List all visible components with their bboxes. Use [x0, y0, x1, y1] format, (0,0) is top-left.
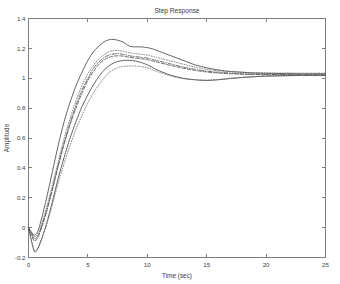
- curve-dashed: [29, 56, 326, 241]
- x-tick-label: 0: [27, 261, 31, 268]
- y-axis-label: Amplitude: [3, 123, 11, 152]
- y-tick-label: 0.4: [17, 164, 26, 171]
- curve-dashdot: [29, 54, 326, 239]
- data-curves: [29, 39, 326, 252]
- chart-title: Step Response: [154, 7, 199, 15]
- y-axis-ticks: [29, 19, 326, 258]
- y-tick-label: 1.2: [17, 45, 26, 52]
- curve-solid: [29, 39, 326, 235]
- x-tick-label: 15: [203, 261, 210, 268]
- x-axis-ticks: [29, 19, 326, 258]
- y-tick-label: 1: [22, 74, 26, 81]
- y-tick-label: 1.4: [17, 15, 26, 22]
- x-tick-label: 5: [86, 261, 90, 268]
- plot-axes-frame: [29, 19, 326, 258]
- y-tick-label: 0.2: [17, 194, 26, 201]
- x-tick-label: 25: [322, 261, 329, 268]
- y-tick-label: 0: [22, 224, 26, 231]
- x-tick-label: 20: [263, 261, 270, 268]
- y-tick-label: 0.6: [17, 134, 26, 141]
- curve-solid: [29, 60, 326, 252]
- x-axis-tick-labels: 0510152025: [27, 261, 330, 268]
- curve-dotted: [29, 51, 326, 237]
- y-tick-label: -0.2: [15, 254, 26, 261]
- axes-frame-path: [29, 19, 326, 258]
- figure-canvas: 0510152025 -0.200.20.40.60.811.21.4 Step…: [0, 0, 340, 284]
- y-tick-label: 0.8: [17, 104, 26, 111]
- x-axis-label: Time (sec): [162, 272, 192, 280]
- step-response-chart: 0510152025 -0.200.20.40.60.811.21.4 Step…: [0, 0, 340, 284]
- y-axis-tick-labels: -0.200.20.40.60.811.21.4: [15, 15, 26, 261]
- x-tick-label: 10: [144, 261, 151, 268]
